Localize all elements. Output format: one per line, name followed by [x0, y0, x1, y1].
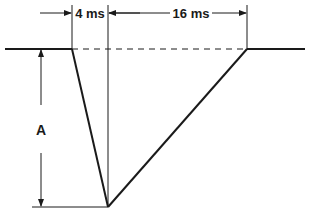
- pulse-waveform-diagram: 4 ms 16 ms A: [0, 0, 309, 211]
- falling-edge: [72, 49, 108, 207]
- rising-edge: [108, 49, 247, 207]
- amplitude-label: A: [36, 122, 46, 138]
- rise-time-label: 4 ms: [75, 6, 105, 21]
- fall-time-label: 16 ms: [173, 6, 210, 21]
